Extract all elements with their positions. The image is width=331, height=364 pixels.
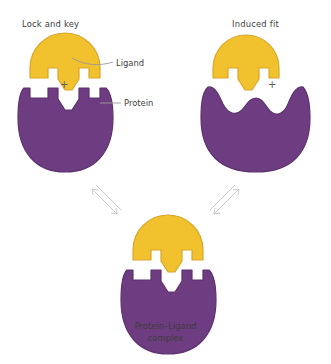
lock-and-key-graphic (0, 0, 170, 190)
plus-operator-lock-and-key: + (60, 80, 68, 90)
caption-line-1: Protein–Ligand (0, 320, 331, 332)
diagram-canvas: Lock and key + Induced fit + Li (0, 0, 331, 364)
label-protein: Protein (124, 98, 153, 108)
panel-lock-and-key (0, 0, 170, 190)
panel-induced-fit (186, 0, 331, 190)
label-ligand: Ligand (116, 58, 144, 68)
plus-operator-induced-fit: + (268, 80, 276, 90)
caption-line-2: complex (0, 332, 331, 344)
ligand-shape-complex (133, 215, 203, 272)
protein-shape-induced-fit (201, 87, 310, 172)
caption-protein-ligand-complex: Protein–Ligand complex (0, 320, 331, 344)
protein-shape-lock-and-key (18, 88, 113, 172)
induced-fit-graphic (186, 0, 331, 190)
